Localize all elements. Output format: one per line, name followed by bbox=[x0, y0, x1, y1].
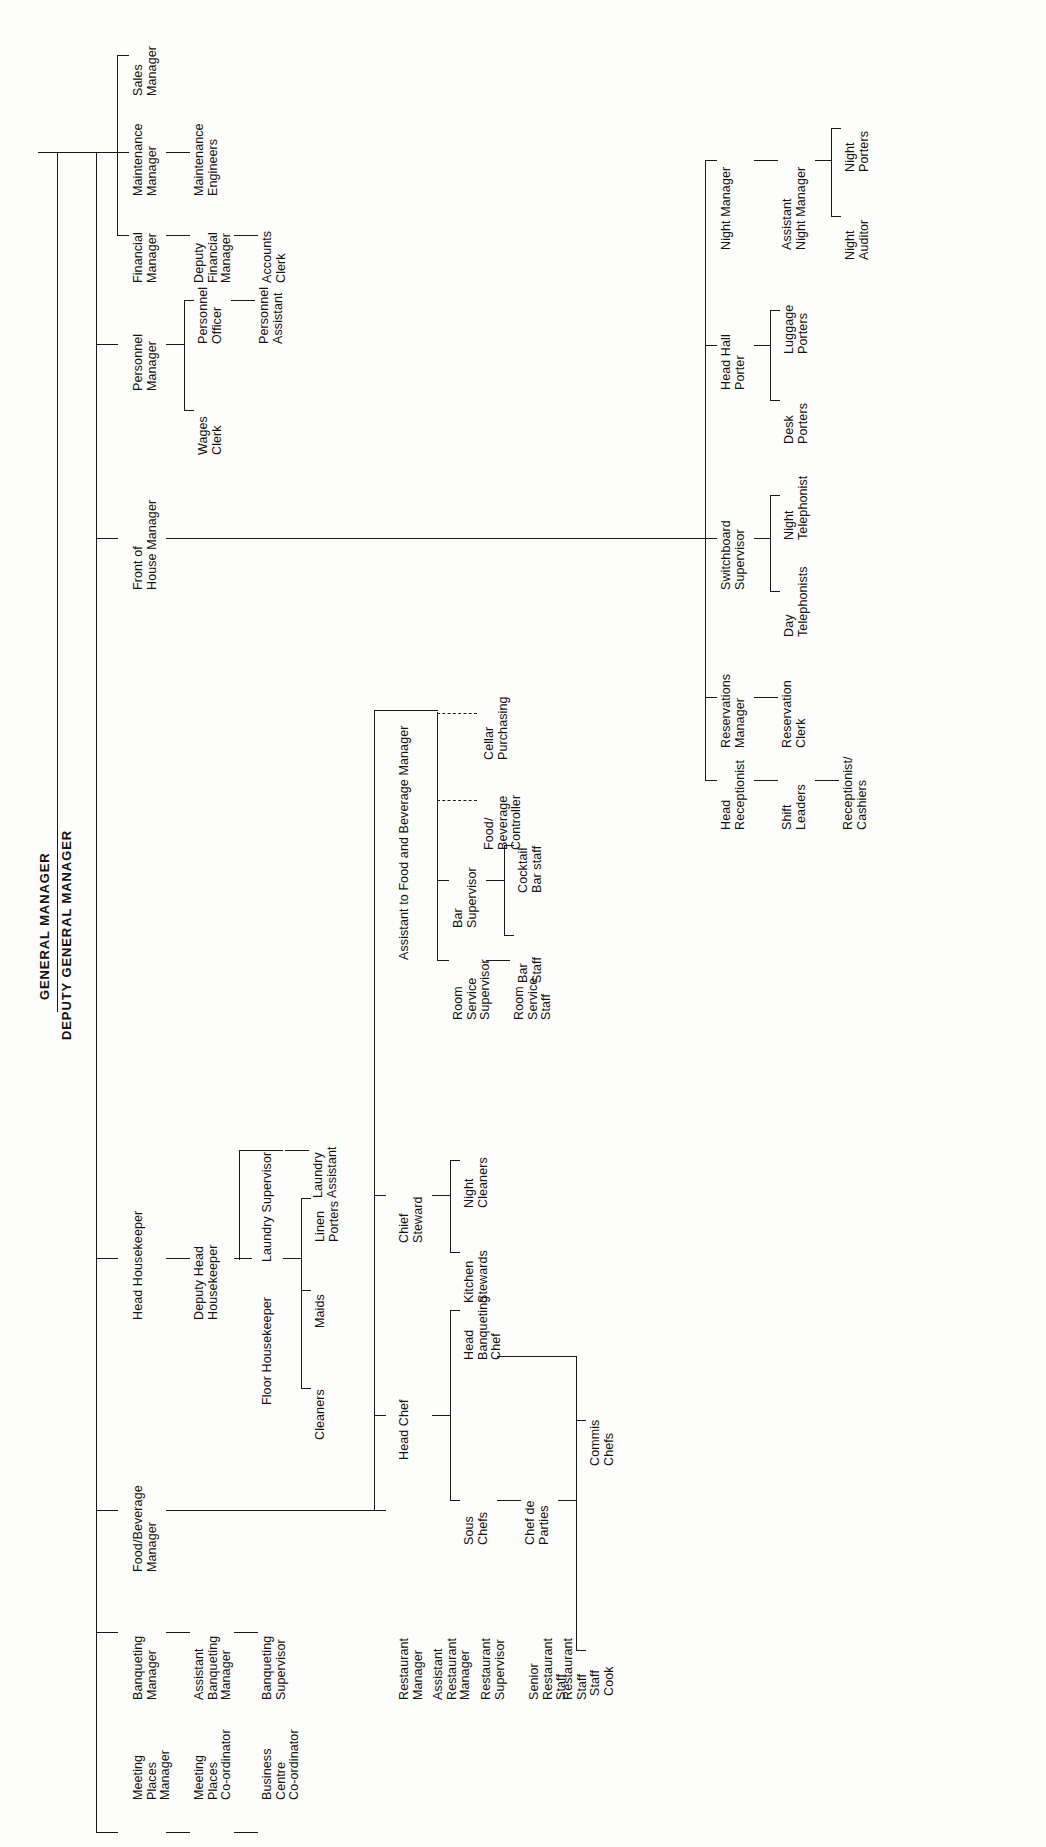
node-head-hall-porter: Head Hall Porter bbox=[720, 334, 747, 390]
node-staff-cook: Staff Cook bbox=[589, 1666, 616, 1696]
line-chef-de-parties-stem bbox=[558, 1500, 576, 1501]
node-maids: Maids bbox=[314, 1294, 328, 1328]
line-meeting-to-coordinator bbox=[166, 1832, 190, 1833]
line-tick-commis-chefs bbox=[576, 1420, 586, 1421]
node-maintenance-engineers: Maintenance Engineers bbox=[193, 123, 220, 196]
line-tick-day-telephonists bbox=[770, 591, 780, 592]
line-laundry-to-assistant bbox=[285, 1150, 309, 1151]
node-night-telephonist: Night Telephonist bbox=[783, 476, 810, 540]
line-reservations-to-clerk bbox=[754, 697, 778, 698]
node-night-porters: Night Porters bbox=[844, 131, 871, 172]
node-receptionist-cashiers: Receptionist/ Cashiers bbox=[842, 756, 869, 830]
node-assistant-restaurant-manager: Assistant Restaurant Manager bbox=[432, 1638, 473, 1700]
line-receptionist-to-shift bbox=[754, 780, 778, 781]
line-head-chef-stem bbox=[432, 1415, 450, 1416]
line-head-chef-bracket bbox=[450, 1310, 451, 1500]
node-business-centre-coordinator: Business Centre Co-ordinator bbox=[261, 1729, 302, 1800]
node-head-banqueting-chef: Head Banqueting Chef bbox=[463, 1296, 504, 1360]
line-banqueting-chef-stem bbox=[497, 1356, 577, 1357]
node-financial-manager: Financial Manager bbox=[132, 232, 159, 283]
line-gm-tick bbox=[38, 152, 58, 153]
line-tick-meeting-places-manager bbox=[96, 1832, 118, 1833]
line-tick-night-porters bbox=[831, 128, 841, 129]
line-tick-night-auditor bbox=[831, 216, 841, 217]
line-shift-to-cashiers bbox=[815, 780, 839, 781]
line-tick-personnel-officer bbox=[184, 300, 194, 301]
line-tick-switchboard-supervisor bbox=[705, 538, 717, 539]
line-tick-front-of-house bbox=[96, 538, 118, 539]
node-restaurant-staff: Restaurant Staff bbox=[562, 1638, 589, 1700]
node-night-manager: Night Manager bbox=[720, 167, 734, 250]
line-tick-bar-staff bbox=[504, 935, 514, 936]
node-night-cleaners: Night Cleaners bbox=[463, 1157, 490, 1208]
line-tick-linen-porters bbox=[301, 1198, 311, 1199]
node-linen-porters: Linen Porters bbox=[314, 1201, 341, 1242]
node-night-auditor: Night Auditor bbox=[844, 220, 871, 260]
line-assistant-night-stem bbox=[815, 160, 831, 161]
node-day-telephonists: Day Telephonists bbox=[783, 566, 810, 637]
line-banqueting-chef-link bbox=[576, 1356, 577, 1422]
line-switchboard-bracket bbox=[770, 495, 771, 591]
line-tick-financial-manager bbox=[117, 235, 129, 236]
node-floor-housekeeper: Floor Housekeeper bbox=[261, 1297, 275, 1405]
line-dgm-spine bbox=[96, 152, 97, 1832]
line-deputy-to-accounts bbox=[234, 235, 258, 236]
line-fb-bracket bbox=[374, 710, 375, 1510]
node-assistant-night-manager: Assistant Night Manager bbox=[781, 167, 808, 250]
node-cleaners: Cleaners bbox=[314, 1389, 328, 1440]
line-tick-room-service-supervisor bbox=[437, 960, 449, 961]
node-bar-supervisor: Bar Supervisor bbox=[452, 867, 479, 928]
node-general-manager: GENERAL MANAGER bbox=[38, 852, 52, 1000]
node-maintenance-manager: Maintenance Manager bbox=[132, 123, 159, 196]
org-chart-canvas: GENERAL MANAGER DEPUTY GENERAL MANAGER S… bbox=[0, 0, 1046, 1847]
node-banqueting-manager: Banqueting Manager bbox=[132, 1636, 159, 1700]
line-sous-to-chef-de-parties bbox=[497, 1500, 521, 1501]
line-tick-maids bbox=[301, 1290, 311, 1291]
node-reservations-manager: Reservations Manager bbox=[720, 674, 747, 748]
node-deputy-head-housekeeper: Deputy Head Housekeeper bbox=[193, 1245, 220, 1320]
line-floor-housekeeper-bracket bbox=[301, 1198, 302, 1388]
line-tick-wages-clerk bbox=[184, 410, 194, 411]
line-root-spine bbox=[57, 152, 58, 1012]
line-fb-connector bbox=[166, 1510, 374, 1511]
line-maintenance-to-engineers bbox=[166, 152, 190, 153]
line-chef-de-parties-bracket bbox=[576, 1420, 577, 1650]
node-sales-manager: Sales Manager bbox=[132, 46, 159, 96]
line-tick-sales-manager bbox=[117, 55, 129, 56]
line-room-service-to-staff bbox=[486, 960, 510, 961]
node-head-housekeeper: Head Housekeeper bbox=[132, 1211, 146, 1320]
line-exec-bracket bbox=[117, 55, 118, 235]
line-floor-housekeeper-stem bbox=[283, 1258, 301, 1259]
line-assistant-banqueting-to-supervisor bbox=[234, 1632, 258, 1633]
line-tick-kitchen-stewards bbox=[450, 1252, 460, 1253]
line-tick-night-manager bbox=[705, 160, 717, 161]
node-head-receptionist: Head Receptionist bbox=[720, 760, 747, 830]
node-food-beverage-controller: Food/ Beverage Controller bbox=[483, 795, 524, 850]
line-personnel-stem bbox=[166, 344, 184, 345]
line-tick-head-hall-porter bbox=[705, 345, 717, 346]
line-tick-desk-porters bbox=[770, 400, 780, 401]
node-chief-steward: Chief Steward bbox=[398, 1196, 425, 1243]
line-tick-chief-steward bbox=[374, 1195, 386, 1196]
line-chief-steward-bracket bbox=[450, 1160, 451, 1252]
node-switchboard-supervisor: Switchboard Supervisor bbox=[720, 520, 747, 590]
line-assistant-fb-spine bbox=[437, 712, 438, 960]
line-foh-connector bbox=[166, 538, 705, 539]
line-tick-cleaners bbox=[301, 1388, 311, 1389]
line-officer-to-assistant bbox=[231, 300, 255, 301]
line-chief-steward-stem bbox=[432, 1195, 450, 1196]
node-cellar-purchasing: Cellar Purchasing bbox=[483, 696, 510, 760]
node-meeting-places-manager: Meeting Places Manager bbox=[132, 1750, 173, 1800]
line-tick-night-telephonist bbox=[770, 495, 780, 496]
line-tick-head-chef bbox=[374, 1415, 386, 1416]
line-tick-banqueting-manager bbox=[96, 1632, 118, 1633]
node-luggage-porters: Luggage Porters bbox=[783, 305, 810, 354]
line-tick-personnel-manager bbox=[96, 344, 118, 345]
line-dgm-to-exec bbox=[96, 152, 118, 153]
node-room-service-supervisor: Room Service Supervisor bbox=[452, 959, 493, 1020]
line-tick-food-beverage-manager bbox=[96, 1510, 118, 1511]
node-chef-de-parties: Chef de Parties bbox=[524, 1501, 551, 1545]
line-switchboard-stem bbox=[754, 538, 770, 539]
node-accounts-clerk: Accounts Clerk bbox=[261, 231, 288, 283]
node-room-service-staff: Room Service Staff bbox=[513, 978, 554, 1020]
